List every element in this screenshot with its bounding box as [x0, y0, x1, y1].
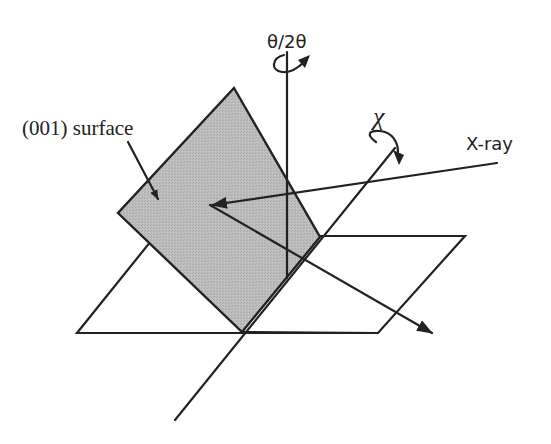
theta-rotation-icon	[274, 55, 310, 72]
diffraction-geometry-diagram: θ/2θ χ X-ray (001) surface	[0, 0, 551, 444]
theta-2theta-label: θ/2θ	[267, 31, 307, 52]
plane-front-edge	[242, 332, 378, 333]
chi-rotation-icon	[370, 131, 404, 165]
chi-label: χ	[370, 102, 385, 131]
xray-label: X-ray	[466, 133, 513, 154]
surface-label: (001) surface	[22, 116, 133, 140]
